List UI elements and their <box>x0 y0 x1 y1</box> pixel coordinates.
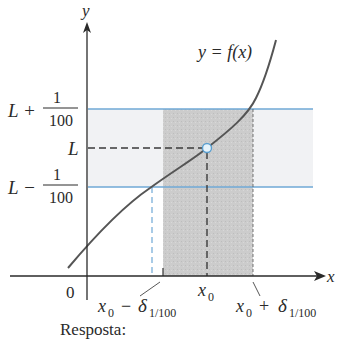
epsilon-delta-diagram: y x 0 y = f(x) L + 1 100 L L − 1 100 x 0… <box>0 0 337 343</box>
svg-text:−: − <box>121 296 131 316</box>
svg-text:L +: L + <box>7 100 36 121</box>
lower-bound-label: L − 1 100 <box>7 166 78 206</box>
x0-minus-delta-label: x 0 − δ 1/100 <box>97 295 176 320</box>
x-axis-label: x <box>326 267 335 286</box>
right-label-leader <box>253 282 260 296</box>
svg-text:x: x <box>235 296 244 316</box>
svg-text:0: 0 <box>208 290 214 304</box>
delta-interval-region <box>163 109 253 276</box>
svg-text:100: 100 <box>49 112 73 129</box>
svg-text:1/100: 1/100 <box>149 306 176 320</box>
svg-text:1: 1 <box>53 166 61 183</box>
svg-text:1: 1 <box>53 89 61 106</box>
svg-text:100: 100 <box>49 189 73 206</box>
svg-text:δ: δ <box>278 295 288 316</box>
x0-label: x 0 <box>197 280 214 304</box>
svg-text:0: 0 <box>246 306 252 320</box>
svg-text:δ: δ <box>138 295 148 316</box>
svg-text:x: x <box>97 296 106 316</box>
y-axis-label: y <box>80 1 90 20</box>
limit-label: L <box>67 138 79 159</box>
x0-plus-delta-label: x 0 + δ 1/100 <box>235 295 316 320</box>
svg-text:1/100: 1/100 <box>289 306 316 320</box>
svg-text:+: + <box>259 296 269 316</box>
svg-text:x: x <box>197 280 206 300</box>
upper-bound-label: L + 1 100 <box>7 89 78 129</box>
origin-label: 0 <box>66 283 75 302</box>
svg-text:0: 0 <box>108 306 114 320</box>
svg-text:L −: L − <box>7 177 36 198</box>
answer-label: Resposta: <box>60 320 126 340</box>
open-point-icon <box>203 144 212 153</box>
left-label-leader <box>140 282 160 296</box>
curve-label: y = f(x) <box>196 42 252 63</box>
